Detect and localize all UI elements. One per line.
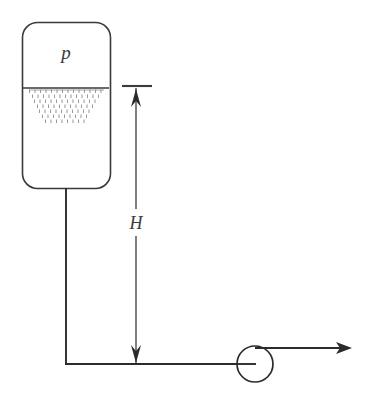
pressure-label: p [59,42,71,63]
height-label: H [129,213,144,233]
figure-canvas: p H [0,0,371,400]
schematic-drawing: p H [0,0,371,400]
